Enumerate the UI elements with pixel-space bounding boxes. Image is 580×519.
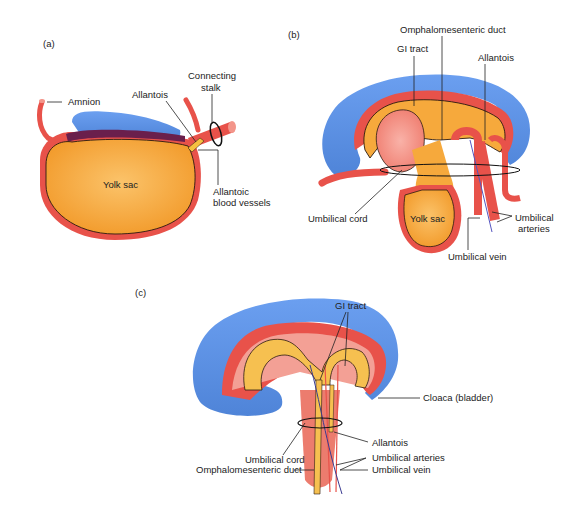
panel-c: (c) GI tract Cloaca (bladder) Allantois … bbox=[135, 287, 493, 494]
label-umbilical-arteries-b-1: Umbilical bbox=[515, 212, 554, 223]
leader-umbilical-vein-b bbox=[468, 218, 480, 250]
label-allantoic-vessels-1: Allantoic bbox=[213, 186, 249, 197]
label-umbilical-vein-c: Umbilical vein bbox=[372, 464, 431, 475]
panel-c-tag: (c) bbox=[135, 287, 146, 298]
label-gi-tract-b: GI tract bbox=[397, 43, 429, 54]
tube-left-b bbox=[322, 172, 385, 183]
label-omphalomesenteric-b: Omphalomesenteric duct bbox=[400, 24, 506, 35]
label-allantois-c: Allantois bbox=[372, 437, 408, 448]
label-yolk-sac-b: Yolk sac bbox=[410, 213, 445, 224]
label-cloaca: Cloaca (bladder) bbox=[423, 392, 493, 403]
amnion-tube-end bbox=[39, 99, 45, 103]
leader-umbilical-arteries-c bbox=[336, 458, 366, 470]
panel-a: (a) Yolk sac Amnion Allantois Connecting… bbox=[39, 38, 271, 240]
vessels-bundle-b bbox=[480, 142, 495, 220]
label-connecting-stalk-1: Connecting bbox=[188, 70, 236, 81]
stalk-branch bbox=[186, 100, 198, 130]
label-umbilical-arteries-c: Umbilical arteries bbox=[372, 452, 445, 463]
embryo-diagram: (a) Yolk sac Amnion Allantois Connecting… bbox=[0, 0, 580, 519]
label-umbilical-cord-b: Umbilical cord bbox=[308, 213, 368, 224]
panel-b-tag: (b) bbox=[288, 29, 300, 40]
panel-b: (b) Yolk sac Omphalomesenteric duct GI t… bbox=[288, 24, 554, 262]
label-allantois-b: Allantois bbox=[478, 52, 514, 63]
label-umbilical-arteries-b-2: arteries bbox=[518, 223, 550, 234]
label-amnion: Amnion bbox=[68, 96, 100, 107]
panel-a-tag: (a) bbox=[43, 38, 55, 49]
leader-umbilical-cord-b bbox=[355, 170, 402, 214]
label-connecting-stalk-2: stalk bbox=[201, 82, 221, 93]
label-omphalomesenteric-c: Omphalomesenteric duct bbox=[196, 464, 302, 475]
label-umbilical-vein-b: Umbilical vein bbox=[448, 251, 507, 262]
leader-allantoic-vessels bbox=[198, 150, 218, 185]
label-yolk-sac-a: Yolk sac bbox=[103, 179, 138, 190]
allantois-c bbox=[329, 385, 334, 432]
leader-umbilical-cord-c bbox=[283, 423, 305, 455]
leader-allantois-c bbox=[334, 432, 368, 442]
label-allantois-a: Allantois bbox=[132, 89, 168, 100]
label-gi-tract-c: GI tract bbox=[335, 300, 367, 311]
stalk-end bbox=[228, 121, 236, 133]
label-allantoic-vessels-2: blood vessels bbox=[213, 197, 271, 208]
